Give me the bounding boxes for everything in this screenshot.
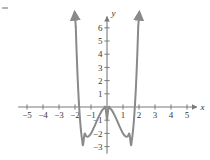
x-tick-label: −2 — [70, 110, 80, 120]
x-tick-label: −5 — [22, 110, 32, 120]
y-tick-label: 1 — [98, 89, 103, 99]
y-tick-label: 4 — [98, 49, 103, 59]
x-tick-label: 2 — [137, 110, 142, 120]
x-tick-label: −3 — [54, 110, 64, 120]
y-tick-label: 5 — [98, 36, 103, 46]
x-axis-label: x — [200, 102, 205, 112]
figure-container: −5−4−3−2−112345−3−2−1123456 x y — [0, 0, 210, 160]
curve-right-branch — [107, 27, 138, 145]
y-tick-label: 3 — [98, 63, 103, 73]
tick-labels: −5−4−3−2−112345−3−2−1123456 — [22, 23, 190, 152]
x-tick-label: 1 — [121, 110, 126, 120]
x-tick-label: 4 — [169, 110, 174, 120]
x-tick-label: 5 — [185, 110, 190, 120]
curve-arrow-right — [138, 12, 139, 27]
y-tick-label: −3 — [93, 142, 103, 152]
y-axis-label: y — [111, 8, 116, 18]
y-tick-label: −2 — [93, 129, 103, 139]
y-tick-label: 6 — [98, 23, 103, 33]
graph-canvas: −5−4−3−2−112345−3−2−1123456 x y — [0, 0, 210, 160]
curve-arrow-left — [75, 12, 76, 27]
x-tick-label: 3 — [153, 110, 158, 120]
scan-dash-artifact — [2, 7, 8, 9]
x-tick-label: −4 — [38, 110, 48, 120]
y-tick-label: 2 — [98, 76, 103, 86]
